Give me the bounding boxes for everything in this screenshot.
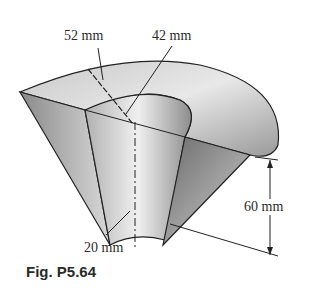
bottom-radius-label: 20 mm [84,240,123,256]
figure-caption: Fig. P5.64 [26,263,96,280]
inner-radius-label: 42 mm [152,28,191,44]
height-label: 60 mm [244,199,283,215]
figure-drawing [0,0,317,296]
outer-radius-label: 52 mm [64,28,103,44]
